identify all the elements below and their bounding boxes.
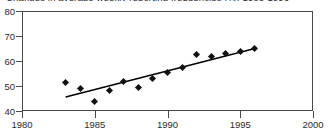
chart-title: Changes in average weekly reporting freq…: [6, 0, 326, 1]
x-axis-tick: [240, 111, 241, 118]
x-axis-label: 2000: [296, 120, 328, 130]
y-axis-label: 50: [0, 82, 15, 91]
x-axis-label: 1990: [151, 120, 185, 130]
x-axis-tick: [22, 111, 23, 118]
y-axis-label: 60: [0, 57, 15, 66]
x-axis-label: 1995: [223, 120, 257, 130]
y-axis-tick: [16, 11, 23, 12]
y-axis-label: 40: [0, 107, 15, 116]
x-axis-tick: [168, 111, 169, 118]
x-axis-label: 1985: [78, 120, 112, 130]
y-axis-tick: [16, 86, 23, 87]
x-axis-tick: [313, 111, 314, 118]
y-axis-label: 70: [0, 32, 15, 41]
x-axis-label: 1980: [5, 120, 39, 130]
y-axis-label: 80: [0, 7, 15, 16]
y-axis-tick: [16, 36, 23, 37]
y-axis-tick: [16, 61, 23, 62]
chart-figure: Changes in average weekly reporting freq…: [0, 0, 328, 136]
x-axis-tick: [95, 111, 96, 118]
plot-area: [22, 11, 313, 111]
